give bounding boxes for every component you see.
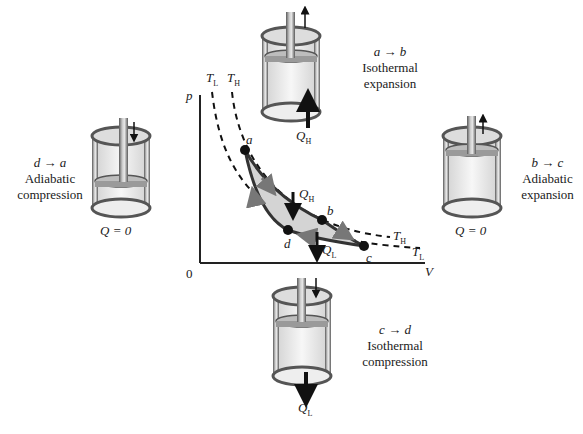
carnot-diagram-graphics: [0, 0, 583, 434]
point-a-label: a: [246, 132, 253, 148]
cylinder-right: [443, 116, 501, 217]
cylinder-left: [92, 118, 150, 217]
p-axis-label: p: [186, 88, 193, 104]
stage-right-heat: Q = 0: [455, 223, 486, 239]
stage-top-heat: QH: [296, 128, 311, 146]
cylinder-bottom: [273, 278, 331, 396]
stage-right-label: b → c Adiabatic expansion: [510, 155, 583, 203]
stage-left-label: d → a Adiabatic compression: [10, 155, 90, 203]
tl-label-top: TL: [206, 70, 218, 88]
point-b: [317, 215, 327, 225]
th-label-right: TH: [393, 228, 406, 246]
stage-bottom-heat: QL: [298, 400, 312, 418]
point-c-label: c: [366, 250, 372, 266]
origin-label: 0: [186, 266, 193, 282]
point-b-label: b: [327, 203, 334, 219]
ql-plot-label: QL: [322, 242, 336, 260]
v-axis-label: V: [425, 264, 433, 280]
stage-left-heat: Q = 0: [100, 223, 131, 239]
qh-plot-label: QH: [299, 186, 314, 204]
point-d-label: d: [284, 236, 291, 252]
tl-label-right: TL: [412, 244, 424, 262]
cylinder-top: [262, 10, 320, 128]
th-label-top: TH: [227, 70, 240, 88]
stage-top-label: a → b Isothermal expansion: [350, 44, 430, 92]
point-d: [283, 225, 293, 235]
stage-bottom-label: c → d Isothermal compression: [350, 322, 440, 370]
